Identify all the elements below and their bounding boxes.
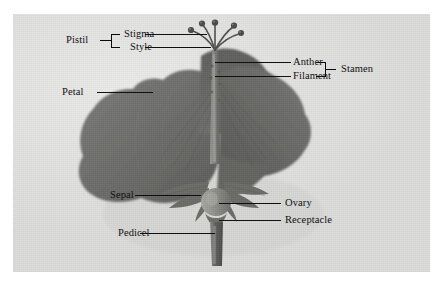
label-pistil: Pistil (66, 34, 88, 45)
label-sepal: Sepal (110, 189, 134, 200)
flower-specimen-illustration (13, 14, 430, 272)
leader-line-filament (215, 76, 291, 77)
leader-line-receptacle (219, 220, 281, 221)
leader-line-anther (215, 62, 291, 63)
label-petal: Petal (62, 86, 84, 97)
flower-photograph (13, 14, 430, 272)
leader-line-sepal (135, 195, 201, 196)
label-stigma: Stigma (124, 28, 154, 39)
label-ovary: Ovary (285, 197, 312, 208)
leader-line-style (145, 47, 211, 48)
label-filament: Filament (293, 70, 331, 81)
leader-line-ovary (219, 203, 281, 204)
label-style: Style (130, 41, 152, 52)
label-stamen: Stamen (341, 63, 373, 74)
flower-anatomy-figure: Pistil Stigma Style Anther Filament Stam… (0, 0, 443, 288)
leader-line-pedicel (140, 233, 215, 234)
label-anther: Anther (293, 56, 323, 67)
label-pedicel: Pedicel (118, 227, 150, 238)
leader-line-petal (97, 92, 153, 93)
label-receptacle: Receptacle (285, 214, 332, 225)
